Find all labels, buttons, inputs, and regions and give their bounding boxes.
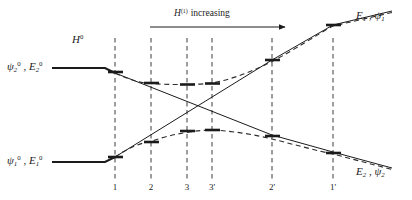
psi-superscript-lower-left: 0 (17, 154, 20, 161)
h1-increasing-text: increasing (191, 8, 230, 18)
psi-subscript-lower-right: 2 (381, 171, 384, 178)
energy-symbol-lower-left: E (29, 154, 36, 166)
energy-subscript-upper-right: 1 (363, 15, 366, 22)
tick-label-2-prime: 2' (265, 183, 279, 192)
separator-upper-left: , (21, 60, 29, 72)
diagram-canvas (0, 0, 412, 200)
energy-superscript-upper-left: 0 (39, 60, 42, 67)
tick-label-1-prime: 1' (326, 183, 340, 192)
state-label-lower-left: ψ10 , E10 (7, 155, 42, 166)
h0-symbol: H (72, 33, 80, 45)
energy-symbol-upper-right: E (356, 9, 363, 21)
energy-symbol-lower-right: E (356, 165, 363, 177)
exact-energy-line-e2 (115, 73, 392, 168)
h1-symbol: H (174, 8, 181, 18)
h1-superscript: (1) (181, 8, 188, 14)
h1-increasing-label: H(1)increasing (174, 9, 230, 19)
energy-symbol-upper-left: E (29, 60, 36, 72)
state-label-upper-right: E1 , ψ1 (356, 10, 385, 21)
zero-order-level-psi2 (52, 68, 115, 73)
tick-label-3: 3 (180, 183, 194, 192)
state-label-lower-right: E2 , ψ2 (356, 166, 385, 177)
psi-symbol-upper-left: ψ (7, 60, 14, 72)
psi-subscript-upper-right: 1 (381, 15, 384, 22)
state-label-upper-left: ψ20 , E20 (7, 61, 42, 72)
tick-label-2: 2 (144, 183, 158, 192)
tick-label-3-prime: 3' (205, 183, 219, 192)
perturbed-curve-e2-upper (115, 13, 392, 85)
tick-label-1: 1 (108, 183, 122, 192)
level-markers (108, 25, 341, 157)
order-gridlines (115, 38, 333, 180)
h0-superscript: 0 (80, 33, 83, 40)
zero-order-level-psi1 (52, 157, 115, 162)
psi-superscript-upper-left: 0 (17, 60, 20, 67)
psi-symbol-lower-left: ψ (7, 154, 14, 166)
separator-lower-left: , (21, 154, 29, 166)
energy-superscript-lower-left: 0 (39, 154, 42, 161)
h0-label: H0 (72, 34, 83, 45)
correlation-diagram-figure: H(1)increasing H0 ψ20 , E20 ψ10 , E10 E1… (0, 0, 412, 200)
energy-subscript-lower-right: 2 (363, 171, 366, 178)
perturbed-curve-e1-lower (115, 130, 392, 170)
